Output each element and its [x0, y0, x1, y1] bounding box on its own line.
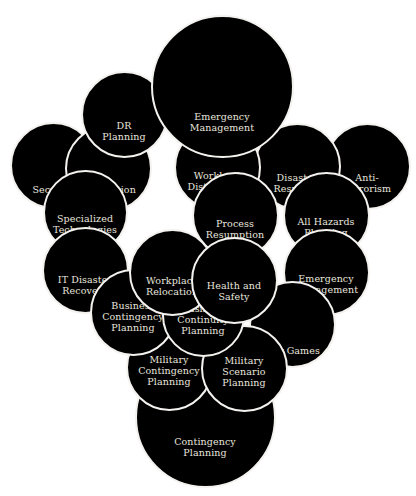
bubble-health-and-safety: Health and Safety: [191, 237, 278, 324]
bubble-label: Military Scenario Planning: [203, 355, 286, 388]
bubble-label: Military Contingency Planning: [128, 354, 211, 387]
bubble-emergency-management-top: Emergency Management: [151, 15, 294, 158]
bubble-label: Contingency Planning: [137, 436, 274, 458]
bubble-label: Emergency Management: [153, 111, 292, 133]
bubble-diagram: SecurityReplicationDR PlanningSpecialize…: [0, 0, 416, 496]
bubble-label: Health and Safety: [193, 280, 276, 302]
